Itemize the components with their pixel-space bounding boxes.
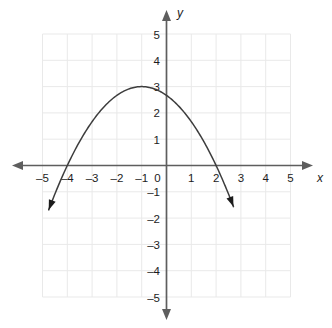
x-axis-arrow-right [302, 161, 313, 170]
y-tick--2: –2 [147, 213, 160, 225]
parabola-arrow-left [49, 199, 56, 210]
y-axis-arrow-up [162, 10, 171, 21]
x-tick-3: 3 [238, 172, 244, 184]
x-axis-tick-labels: –5–4–3–2–1012345 [36, 172, 294, 184]
x-axis-arrow-left [12, 161, 23, 170]
y-tick--3: –3 [147, 239, 160, 251]
y-tick-2: 2 [154, 107, 160, 119]
x-tick-2: 2 [213, 172, 219, 184]
y-tick-4: 4 [154, 55, 161, 67]
y-tick--1: –1 [147, 186, 160, 198]
x-tick-5: 5 [287, 172, 293, 184]
x-tick--2: –2 [111, 172, 124, 184]
y-tick-5: 5 [154, 29, 160, 41]
y-axis-arrow-down [162, 309, 171, 320]
y-tick--4: –4 [147, 265, 160, 277]
x-tick-0: 0 [154, 172, 160, 184]
coordinate-graph: –5–4–3–2–1012345 54321–1–2–3–4–5 y x [0, 0, 332, 328]
y-axis-label: y [176, 6, 184, 20]
x-tick--1: –1 [135, 172, 148, 184]
axes-group [12, 10, 313, 320]
y-tick--5: –5 [147, 292, 160, 304]
graph-canvas: –5–4–3–2–1012345 54321–1–2–3–4–5 y x [0, 0, 332, 328]
x-tick-4: 4 [262, 172, 269, 184]
parabola-arrow-right [226, 196, 233, 207]
x-tick--3: –3 [86, 172, 99, 184]
x-tick--5: –5 [36, 172, 49, 184]
x-tick-1: 1 [188, 172, 194, 184]
y-tick-1: 1 [154, 134, 160, 146]
x-axis-label: x [316, 171, 324, 185]
